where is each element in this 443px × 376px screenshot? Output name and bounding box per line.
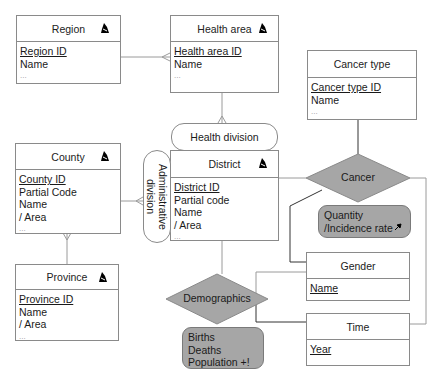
- attribute: Births: [188, 331, 263, 344]
- field-more: ...: [311, 106, 416, 118]
- field-pk: Health area ID: [174, 45, 278, 58]
- attribute: Quantity: [324, 209, 410, 222]
- entity-gender[interactable]: Gender Name: [306, 252, 410, 301]
- entity-health-area[interactable]: Health area Health area ID Name ...: [170, 15, 279, 93]
- field: Partial code: [174, 194, 278, 207]
- field-pk: District ID: [174, 181, 278, 194]
- field-more: ...: [19, 331, 118, 343]
- field-more: ...: [19, 223, 120, 235]
- field-pk: Cancer type ID: [311, 81, 416, 94]
- entity-icon: [258, 23, 268, 34]
- field-pk: Name: [310, 282, 409, 295]
- field-pk: Province ID: [19, 293, 118, 306]
- entity-icon: [100, 23, 110, 34]
- field: Name: [311, 94, 416, 107]
- entity-title: Cancer type: [334, 58, 391, 70]
- relationship-demographics-attributes[interactable]: Births Deaths Population +!: [182, 327, 264, 369]
- relationship-demographics-label[interactable]: Demographics: [166, 292, 268, 304]
- entity-title: County: [51, 151, 84, 163]
- entity-cancer-type[interactable]: Cancer type Cancer type ID Name ...: [307, 50, 417, 120]
- entity-title: Health area: [197, 23, 251, 35]
- entity-title: Time: [347, 321, 370, 333]
- field-more: ...: [174, 231, 278, 243]
- field: / Area: [19, 318, 118, 331]
- entity-title: District: [208, 158, 240, 170]
- entity-time[interactable]: Time Year: [306, 313, 410, 366]
- entity-icon: [100, 151, 110, 162]
- field-more: ...: [174, 70, 278, 82]
- entity-title: Province: [47, 271, 88, 283]
- field: Name: [174, 58, 278, 71]
- relationship-cancer-attributes[interactable]: Quantity /Incidence rate: [318, 205, 411, 238]
- entity-icon: [258, 158, 268, 169]
- entity-region[interactable]: Region Region ID Name ...: [16, 15, 121, 84]
- entity-icon: [98, 272, 108, 283]
- field: Name: [19, 198, 120, 211]
- field-pk: County ID: [19, 173, 120, 186]
- attribute: Population +!: [188, 356, 263, 369]
- entity-title: Region: [52, 23, 85, 35]
- field: Name: [20, 58, 120, 71]
- pin-icon: [394, 223, 402, 231]
- hierarchy-health-division[interactable]: Health division: [171, 123, 278, 151]
- field-more: ...: [20, 70, 120, 82]
- attribute: Deaths: [188, 344, 263, 357]
- entity-province[interactable]: Province Province ID Name / Area ...: [15, 264, 119, 341]
- hierarchy-label: Health division: [190, 131, 258, 143]
- entity-county[interactable]: County County ID Partial Code Name / Are…: [15, 143, 121, 234]
- hierarchy-label: Administrative division: [145, 151, 169, 242]
- field: / Area: [19, 211, 120, 224]
- field-pk: Region ID: [20, 45, 120, 58]
- field: Name: [19, 306, 118, 319]
- field-pk: Year: [310, 343, 409, 356]
- field: Name: [174, 206, 278, 219]
- field: Partial Code: [19, 186, 120, 199]
- entity-district[interactable]: District District ID Partial code Name /…: [170, 150, 279, 241]
- hierarchy-administrative-division[interactable]: Administrative division: [143, 150, 171, 243]
- entity-title: Gender: [340, 260, 375, 272]
- relationship-cancer-label[interactable]: Cancer: [306, 171, 410, 183]
- field: / Area: [174, 219, 278, 232]
